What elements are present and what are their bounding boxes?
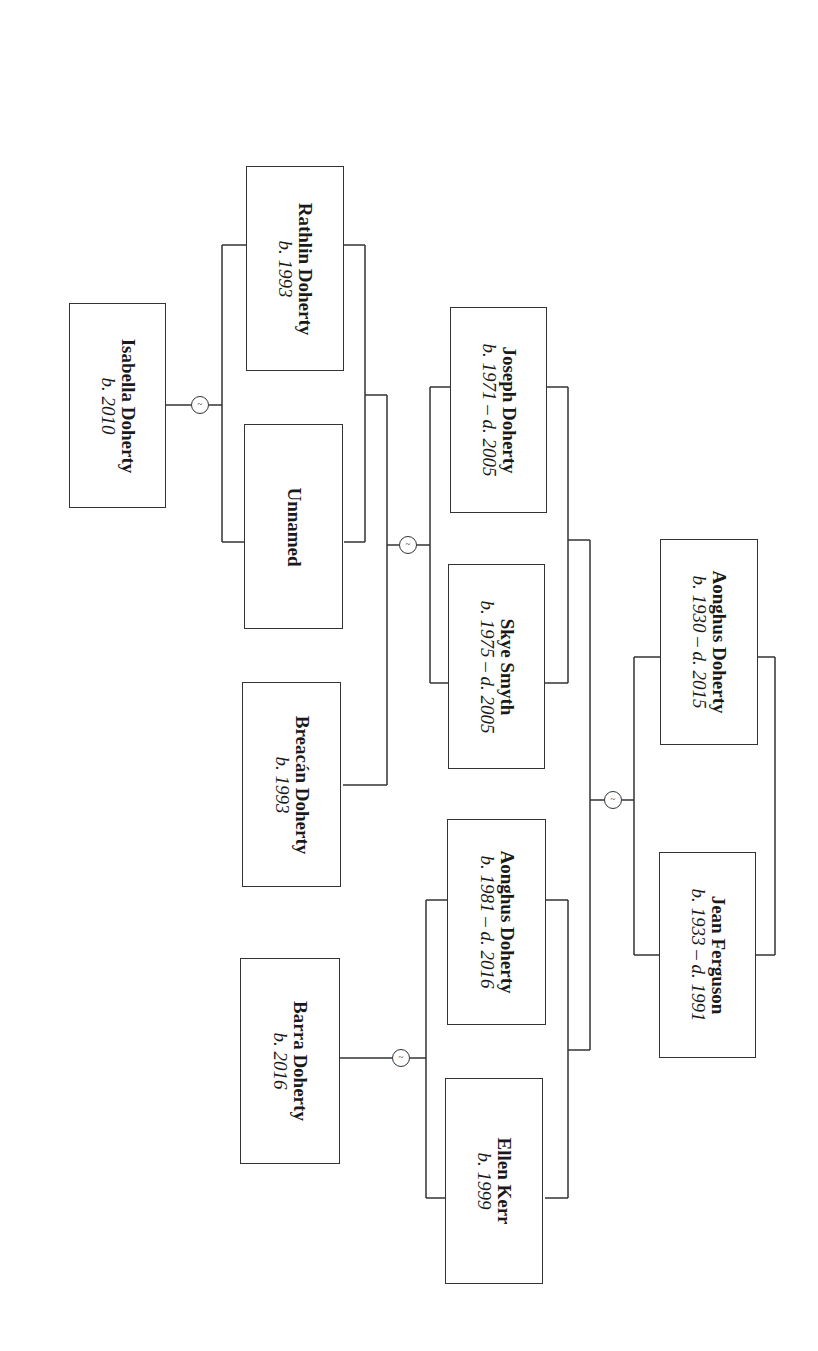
person-rathlin-doherty[interactable]: Rathlin Dohertyb. 1993: [246, 166, 344, 371]
union-marker-icon: ~: [399, 536, 417, 554]
person-name: Ellen Kerr: [494, 1137, 514, 1224]
person-name: Aonghus Doherty: [497, 850, 517, 993]
person-name: Unnamed: [284, 487, 304, 566]
person-dates: b. 1975 – d. 2005: [477, 600, 497, 733]
person-joseph-doherty[interactable]: Joseph Dohertyb. 1971 – d. 2005: [450, 307, 547, 513]
person-dates: b. 1993: [275, 202, 295, 334]
person-aonghus-doherty-1981[interactable]: Aonghus Dohertyb. 1981 – d. 2016: [447, 819, 546, 1025]
person-dates: b. 1933 – d. 1991: [688, 889, 708, 1022]
person-ellen-kerr[interactable]: Ellen Kerrb. 1999: [445, 1078, 543, 1284]
person-jean-ferguson[interactable]: Jean Fergusonb. 1933 – d. 1991: [659, 852, 756, 1058]
person-name: Barra Doherty: [290, 1001, 310, 1121]
person-dates: b. 2016: [270, 1001, 290, 1121]
person-dates: b. 1981 – d. 2016: [477, 850, 497, 993]
person-breacan-doherty[interactable]: Breacán Dohertyb. 1993: [242, 682, 341, 887]
person-name: Breacán Doherty: [292, 715, 312, 853]
person-aonghus-doherty-1930[interactable]: Aonghus Dohertyb. 1930 – d. 2015: [660, 539, 758, 745]
person-isabella-doherty[interactable]: Isabella Dohertyb. 2010: [69, 303, 166, 508]
person-barra-doherty[interactable]: Barra Dohertyb. 2016: [240, 958, 340, 1164]
person-dates: b. 1999: [474, 1137, 494, 1224]
person-dates: b. 2010: [98, 338, 118, 473]
person-name: Joseph Doherty: [499, 344, 519, 477]
person-name: Isabella Doherty: [118, 338, 138, 473]
union-marker-icon: ~: [392, 1049, 410, 1067]
person-skye-smyth[interactable]: Skye Smythb. 1975 – d. 2005: [448, 564, 545, 769]
person-name: Jean Ferguson: [708, 889, 728, 1022]
union-marker-icon: ~: [604, 791, 622, 809]
person-unnamed[interactable]: Unnamed: [244, 424, 343, 629]
person-name: Skye Smyth: [497, 600, 517, 733]
person-dates: b. 1930 – d. 2015: [689, 570, 709, 713]
person-dates: b. 1993: [272, 715, 292, 853]
person-dates: b. 1971 – d. 2005: [479, 344, 499, 477]
person-name: Aonghus Doherty: [709, 570, 729, 713]
union-marker-icon: ~: [191, 396, 209, 414]
person-name: Rathlin Doherty: [295, 202, 315, 334]
